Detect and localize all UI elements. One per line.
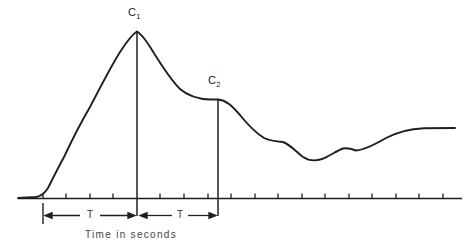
x-axis-label: Time in seconds [85,229,177,240]
figure-canvas: C1 C2 T T Time in seconds [0,0,464,251]
response-curve [18,32,455,199]
peak-label-c2-letter: C [208,74,216,86]
peak-label-c2: C2 [208,74,221,89]
peak-label-c1-subscript: 1 [136,12,140,21]
peak-label-c2-subscript: 2 [216,80,220,89]
interval-2-label: T [177,209,183,220]
curve-plot-svg [0,0,464,251]
peak-label-c1-letter: C [128,6,136,18]
interval-1-label: T [87,209,93,220]
peak-label-c1: C1 [128,6,141,21]
